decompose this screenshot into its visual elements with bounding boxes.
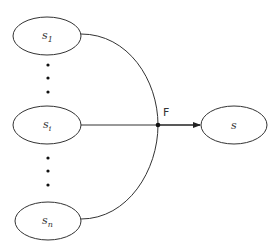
ellipsis-dot bbox=[46, 169, 49, 172]
ellipsis-dots-lower bbox=[46, 156, 49, 186]
ellipsis-dot bbox=[46, 183, 49, 186]
edge-s1-to-f bbox=[81, 34, 158, 125]
ellipsis-dots-upper bbox=[46, 63, 49, 93]
node-s1: s1 bbox=[13, 17, 81, 55]
fan-in-diagram: F s1 si sn s bbox=[0, 0, 280, 252]
ellipsis-dot bbox=[46, 76, 49, 79]
node-s-label: s bbox=[231, 119, 237, 132]
node-si: si bbox=[13, 106, 81, 144]
ellipsis-dot bbox=[46, 90, 49, 93]
node-s: s bbox=[201, 106, 267, 144]
junction-label: F bbox=[163, 106, 169, 119]
ellipsis-dot bbox=[46, 156, 49, 159]
ellipsis-dot bbox=[46, 63, 49, 66]
junction-point bbox=[156, 123, 161, 128]
edge-sn-to-f bbox=[81, 125, 158, 219]
edges bbox=[81, 34, 200, 219]
node-sn: sn bbox=[15, 202, 81, 240]
